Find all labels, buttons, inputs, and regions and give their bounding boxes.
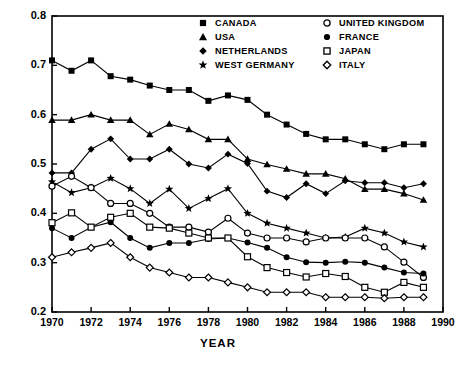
data-point-filled-diamond: [303, 180, 310, 187]
data-point-open-square: [69, 210, 75, 216]
data-point-filled-circle: [362, 260, 368, 266]
legend-label: CANADA: [215, 18, 257, 28]
legend-label: NETHERLANDS: [215, 46, 288, 56]
x-tick-label: 1980: [228, 316, 268, 328]
legend-item-usa: USA: [196, 30, 295, 44]
legend-symbol: [196, 44, 210, 58]
legend-marker-filled-star: [197, 59, 209, 71]
chart-figure: CANADAUSANETHERLANDSWEST GERMANYUNITED K…: [0, 0, 458, 367]
legend-column-right: UNITED KINGDOMFRANCEJAPANITALY: [320, 16, 424, 72]
x-tick-label: 1976: [149, 316, 189, 328]
x-tick-label: 1978: [188, 316, 228, 328]
x-tick-label: 1986: [345, 316, 385, 328]
data-point-filled-diamond: [283, 194, 290, 201]
data-point-filled-circle: [342, 259, 348, 265]
data-point-open-circle: [127, 200, 133, 206]
x-tick-label: 1974: [110, 316, 150, 328]
data-point-open-circle: [362, 235, 368, 241]
x-tick-label: 1990: [423, 316, 458, 328]
data-point-filled-star: [380, 229, 388, 237]
data-point-filled-diamond: [420, 180, 427, 187]
data-point-filled-diamond: [205, 164, 212, 171]
data-point-open-square: [108, 214, 114, 220]
data-point-filled-square: [362, 141, 368, 147]
data-point-filled-circle: [420, 271, 426, 277]
legend-marker-filled-square: [197, 17, 209, 29]
legend-label: FRANCE: [339, 32, 379, 42]
data-point-open-diamond: [185, 274, 192, 281]
legend-label: JAPAN: [339, 46, 371, 56]
legend-item-united-kingdom: UNITED KINGDOM: [320, 16, 424, 30]
data-point-filled-square: [108, 73, 114, 79]
data-point-open-square: [186, 230, 192, 236]
legend-item-netherlands: NETHERLANDS: [196, 44, 295, 58]
legend-marker-open-diamond: [321, 59, 333, 71]
legend-item-japan: JAPAN: [320, 44, 424, 58]
y-tick-label: 0.8: [6, 9, 46, 21]
data-point-filled-square: [401, 141, 407, 147]
legend-symbol: [320, 58, 334, 72]
y-tick-label: 0.5: [6, 157, 46, 169]
data-point-filled-diamond: [361, 179, 368, 186]
data-point-filled-star: [361, 224, 369, 232]
legend-item-france: FRANCE: [320, 30, 424, 44]
data-point-filled-circle: [264, 245, 270, 251]
data-point-open-circle: [205, 229, 211, 235]
y-tick-label: 0.3: [6, 256, 46, 268]
data-point-filled-square: [225, 92, 231, 98]
data-point-open-square: [88, 224, 94, 230]
legend-marker-filled-triangle: [197, 31, 209, 43]
series-line-usa: [52, 115, 423, 200]
data-point-filled-circle: [323, 260, 329, 266]
x-tick-label: 1984: [306, 316, 346, 328]
data-point-filled-square: [381, 146, 387, 152]
data-point-filled-square: [323, 136, 329, 142]
data-point-open-circle: [323, 235, 329, 241]
data-point-filled-triangle: [166, 120, 174, 127]
legend-label: WEST GERMANY: [215, 60, 295, 70]
data-point-filled-circle: [303, 259, 309, 265]
legend-symbol: [320, 44, 334, 58]
data-point-filled-star: [263, 219, 271, 227]
legend-marker-open-square: [321, 45, 333, 57]
data-point-open-diamond: [264, 289, 271, 296]
data-point-open-square: [362, 284, 368, 290]
legend-symbol: [196, 58, 210, 72]
legend-label: USA: [215, 32, 235, 42]
data-point-filled-circle: [127, 235, 133, 241]
legend-symbol: [320, 30, 334, 44]
data-point-open-square: [323, 271, 329, 277]
legend-symbol: [196, 30, 210, 44]
legend-symbol: [196, 16, 210, 30]
data-point-filled-square: [284, 122, 290, 128]
y-tick-label: 0.6: [6, 108, 46, 120]
data-point-filled-circle: [166, 240, 172, 246]
data-point-filled-square: [420, 141, 426, 147]
data-point-filled-star: [204, 194, 212, 202]
data-point-open-diamond: [146, 264, 153, 271]
data-point-open-circle: [264, 235, 270, 241]
data-point-open-square: [342, 273, 348, 279]
legend-item-canada: CANADA: [196, 16, 295, 30]
data-point-open-circle: [186, 224, 192, 230]
legend-column-left: CANADAUSANETHERLANDSWEST GERMANY: [196, 16, 295, 72]
data-point-open-diamond: [303, 289, 310, 296]
data-point-filled-square: [147, 83, 153, 89]
data-point-open-circle: [108, 200, 114, 206]
legend-marker-filled-circle: [321, 31, 333, 43]
data-point-filled-circle: [381, 265, 387, 271]
data-point-open-diamond: [49, 254, 56, 261]
data-point-filled-square: [88, 57, 94, 63]
data-point-filled-star: [146, 199, 154, 207]
data-point-open-diamond: [283, 289, 290, 296]
data-point-open-diamond: [420, 294, 427, 301]
data-point-filled-circle: [284, 254, 290, 260]
data-point-open-circle: [225, 215, 231, 221]
data-point-open-circle: [381, 244, 387, 250]
data-point-open-circle: [284, 235, 290, 241]
data-point-open-diamond: [342, 294, 349, 301]
data-point-open-square: [420, 284, 426, 290]
data-point-open-square: [225, 235, 231, 241]
data-point-open-diamond: [244, 284, 251, 291]
chart-legend: CANADAUSANETHERLANDSWEST GERMANYUNITED K…: [196, 16, 440, 72]
